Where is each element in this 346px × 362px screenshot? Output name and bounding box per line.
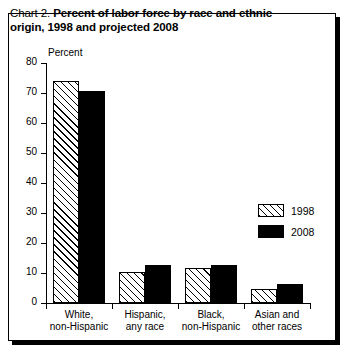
y-axis-tick-label: 30 [26, 206, 37, 217]
frame-shadow-right [336, 17, 340, 345]
bar-1998-1 [119, 272, 145, 303]
chart-title-bold-1: Percent of labor force by race and ethni… [53, 7, 272, 19]
bar-group [119, 63, 171, 303]
category-label-line: other races [244, 321, 310, 333]
y-axis-tick: 40 [41, 183, 47, 184]
solid-black-swatch-icon [258, 225, 284, 238]
y-axis-tick-label: 20 [26, 236, 37, 247]
legend-label-2008: 2008 [291, 226, 314, 238]
y-axis-tick-label: 50 [26, 146, 37, 157]
category-label: White,non-Hispanic [46, 309, 112, 332]
y-axis-tick: 10 [41, 273, 47, 274]
y-axis-tick: 30 [41, 213, 47, 214]
bar-2008-2 [211, 265, 237, 303]
chart-legend: 1998 2008 [258, 202, 314, 244]
category-label-line: Asian and [244, 309, 310, 321]
bar-1998-3 [251, 289, 277, 303]
y-axis-tick-label: 70 [26, 86, 37, 97]
chart-title: Chart 2. Percent of labor force by race … [10, 6, 312, 34]
y-axis-tick: 50 [41, 153, 47, 154]
bar-group [185, 63, 237, 303]
bar-1998-2 [185, 268, 211, 303]
category-label-line: any race [112, 321, 178, 333]
bar-group [251, 63, 303, 303]
legend-entry-2008: 2008 [258, 223, 314, 240]
y-axis-tick-label: 10 [26, 266, 37, 277]
chart-screenshot: Chart 2. Percent of labor force by race … [0, 0, 346, 362]
bar-1998-0 [53, 81, 79, 303]
legend-entry-1998: 1998 [258, 202, 314, 219]
category-label: Black,non-Hispanic [178, 309, 244, 332]
bar-2008-3 [277, 284, 303, 303]
y-axis-tick-label: 40 [26, 176, 37, 187]
category-label-line: Hispanic, [112, 309, 178, 321]
legend-label-1998: 1998 [291, 205, 314, 217]
category-label-line: White, [46, 309, 112, 321]
frame-shadow-bottom [12, 341, 340, 345]
y-axis-tick: 70 [41, 93, 47, 94]
y-axis-tick: 60 [41, 123, 47, 124]
y-axis-tick-label: 60 [26, 116, 37, 127]
bar-2008-0 [79, 91, 105, 303]
bar-group [53, 63, 105, 303]
y-axis-unit-label: Percent [48, 47, 82, 58]
y-axis-tick-label: 0 [31, 296, 37, 307]
y-axis-tick: 80 [41, 63, 47, 64]
chart-title-line-2: origin, 1998 and projected 2008 [10, 20, 312, 34]
category-label: Hispanic,any race [112, 309, 178, 332]
category-label-line: non-Hispanic [46, 321, 112, 333]
category-label-line: Black, [178, 309, 244, 321]
hatched-swatch-icon [258, 204, 284, 217]
chart-title-prefix: Chart 2. [10, 7, 50, 19]
category-label-line: non-Hispanic [178, 321, 244, 333]
category-label: Asian andother races [244, 309, 310, 332]
bar-2008-1 [145, 265, 171, 303]
x-axis-tick [310, 303, 311, 309]
chart-title-line-1: Chart 2. Percent of labor force by race … [10, 6, 312, 20]
y-axis-tick: 20 [41, 243, 47, 244]
y-axis-tick-label: 80 [26, 56, 37, 67]
plot-area: 01020304050607080 White,non-HispanicHisp… [46, 63, 310, 303]
